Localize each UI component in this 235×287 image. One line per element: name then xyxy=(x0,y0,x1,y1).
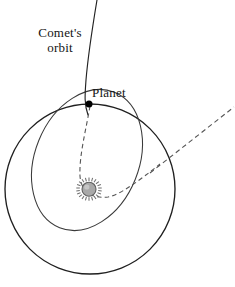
comet-orbit-label-line1: Comet's xyxy=(38,25,81,40)
figure-background xyxy=(0,0,235,287)
planet-marker-dot xyxy=(86,101,93,108)
orbit-diagram-canvas: Comet's orbit Planet xyxy=(0,0,235,287)
orbit-diagram-figure: Comet's orbit Planet xyxy=(0,0,235,287)
planet-label: Planet xyxy=(92,85,126,100)
comet-orbit-label-line2: orbit xyxy=(47,40,73,55)
sun-disc xyxy=(82,182,96,196)
sun-highlight xyxy=(84,184,89,189)
